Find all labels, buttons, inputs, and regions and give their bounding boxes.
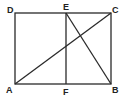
- label-d: D: [7, 5, 14, 15]
- label-f: F: [63, 87, 69, 96]
- label-b: B: [112, 85, 119, 95]
- label-c: C: [112, 5, 119, 15]
- label-e: E: [63, 2, 69, 12]
- geometry-diagram: D E C A F B: [0, 0, 125, 96]
- label-a: A: [6, 85, 13, 95]
- segment-eb: [66, 13, 111, 84]
- diagonal-ac: [15, 13, 111, 84]
